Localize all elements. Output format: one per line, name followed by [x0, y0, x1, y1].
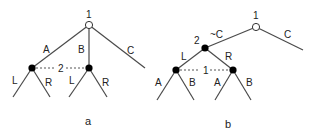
root-node-b [252, 23, 259, 30]
player-label-b-node2: 2 [194, 35, 200, 46]
decision-node-b-left [172, 66, 179, 73]
action-label-a-left-L: L [12, 75, 18, 86]
action-label-a-left-R: R [45, 77, 52, 88]
action-label-a-C: C [127, 45, 134, 56]
tree-a: 1 A B C 2 L R L R a [12, 9, 145, 127]
caption-a: a [85, 115, 92, 127]
action-label-b-R: R [225, 51, 232, 62]
player-label-b-root: 1 [253, 10, 259, 21]
action-label-a-B: B [78, 44, 85, 55]
action-label-b-C: C [284, 29, 291, 40]
action-label-b-L: L [181, 51, 187, 62]
caption-b: b [225, 118, 231, 130]
game-tree-diagram: 1 A B C 2 L R L R a 1 ~C C 2 [0, 0, 314, 134]
decision-node-b-right [229, 66, 236, 73]
action-label-b-right-B: B [246, 77, 253, 88]
edge-a-C [89, 25, 145, 68]
action-label-b-left-B: B [189, 77, 196, 88]
action-label-a-mid-L: L [69, 75, 75, 86]
decision-node-a-middle [85, 64, 92, 71]
player-label-a-root: 1 [86, 9, 92, 20]
edge-b-C [256, 27, 303, 50]
root-node-a [85, 21, 92, 28]
info-set-label-a: 2 [58, 63, 64, 74]
info-set-label-b: 1 [203, 65, 209, 76]
decision-node-a-left [28, 64, 35, 71]
action-label-a-A: A [43, 44, 50, 55]
tree-b: 1 ~C C 2 L R 1 A B A B b [155, 10, 303, 130]
action-label-b-right-A: A [214, 77, 221, 88]
decision-node-b-2 [201, 44, 208, 51]
action-label-b-left-A: A [155, 77, 162, 88]
action-label-b-notC: ~C [210, 29, 223, 40]
action-label-a-mid-R: R [102, 77, 109, 88]
